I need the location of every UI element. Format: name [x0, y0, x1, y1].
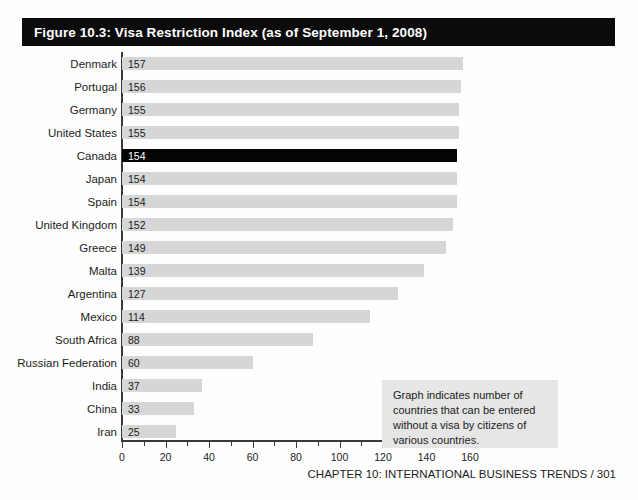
- bar-category-label: Mexico: [0, 311, 117, 323]
- bar-category-label: Russian Federation: [0, 357, 117, 369]
- bar: 25: [122, 425, 176, 438]
- x-axis-minor-tick: [361, 441, 362, 446]
- x-axis-minor-tick: [187, 441, 188, 446]
- bar-category-label: Germany: [0, 104, 117, 116]
- x-axis-major-tick: [296, 441, 297, 448]
- bar-row: United States155: [0, 121, 638, 144]
- x-axis-major-tick: [122, 441, 123, 448]
- bar-chart-plot-area: Denmark157Portugal156Germany155United St…: [0, 52, 638, 444]
- bar-value-label: 60: [128, 357, 140, 369]
- x-axis-minor-tick: [318, 441, 319, 446]
- bar: 155: [122, 126, 459, 139]
- bar-value-label: 149: [128, 242, 146, 254]
- x-axis-major-tick: [209, 441, 210, 448]
- bar-category-label: United Kingdom: [0, 219, 117, 231]
- bar-value-label: 88: [128, 334, 140, 346]
- bar: 156: [122, 80, 461, 93]
- bar-category-label: Japan: [0, 173, 117, 185]
- bar-category-label: Malta: [0, 265, 117, 277]
- bar-value-label: 154: [128, 196, 146, 208]
- bar-value-label: 155: [128, 104, 146, 116]
- page-footer: CHAPTER 10: INTERNATIONAL BUSINESS TREND…: [308, 468, 616, 480]
- bar-row: Spain154: [0, 190, 638, 213]
- bar-category-label: United States: [0, 127, 117, 139]
- bar-row: United Kingdom152: [0, 213, 638, 236]
- bar-row: Malta139: [0, 259, 638, 282]
- bar: 157: [122, 57, 463, 70]
- bar: 154: [122, 149, 457, 162]
- bar-row: Argentina127: [0, 282, 638, 305]
- bar-row: Germany155: [0, 98, 638, 121]
- figure-page: Figure 10.3: Visa Restriction Index (as …: [0, 0, 638, 500]
- x-axis-minor-tick: [274, 441, 275, 446]
- bar: 155: [122, 103, 459, 116]
- bar-category-label: China: [0, 403, 117, 415]
- bar: 154: [122, 195, 457, 208]
- bar-value-label: 33: [128, 403, 140, 415]
- bar: 149: [122, 241, 446, 254]
- bar: 33: [122, 402, 194, 415]
- bar: 139: [122, 264, 424, 277]
- bar-category-label: Denmark: [0, 58, 117, 70]
- x-axis-tick-label: 60: [247, 451, 259, 463]
- figure-title: Figure 10.3: Visa Restriction Index (as …: [34, 25, 427, 40]
- bar-row: Japan154: [0, 167, 638, 190]
- bar-category-label: South Africa: [0, 334, 117, 346]
- bar-category-label: Spain: [0, 196, 117, 208]
- bar-value-label: 127: [128, 288, 146, 300]
- bar-row: Mexico114: [0, 305, 638, 328]
- bar: 60: [122, 356, 253, 369]
- chart-annotation-text: Graph indicates number of countries that…: [393, 388, 548, 447]
- bar-value-label: 156: [128, 81, 146, 93]
- x-axis-tick-label: 0: [119, 451, 125, 463]
- chart-annotation-box: Graph indicates number of countries that…: [382, 380, 558, 448]
- bar-row: Canada154: [0, 144, 638, 167]
- x-axis-tick-label: 160: [461, 451, 479, 463]
- x-axis-major-tick: [166, 441, 167, 448]
- bar-value-label: 155: [128, 127, 146, 139]
- bar-category-label: India: [0, 380, 117, 392]
- bar-row: Russian Federation60: [0, 351, 638, 374]
- bar-row: Denmark157: [0, 52, 638, 75]
- bar-value-label: 157: [128, 58, 146, 70]
- x-axis-major-tick: [253, 441, 254, 448]
- bar-row: Portugal156: [0, 75, 638, 98]
- bar-category-label: Portugal: [0, 81, 117, 93]
- bar-value-label: 25: [128, 426, 140, 438]
- bar-value-label: 114: [128, 311, 145, 323]
- bar-value-label: 139: [128, 265, 146, 277]
- bar: 127: [122, 287, 398, 300]
- bar: 154: [122, 172, 457, 185]
- x-axis-tick-label: 140: [418, 451, 436, 463]
- bar-value-label: 152: [128, 219, 146, 231]
- bar: 152: [122, 218, 453, 231]
- bar-category-label: Greece: [0, 242, 117, 254]
- x-axis-major-tick: [340, 441, 341, 448]
- bar-row: South Africa88: [0, 328, 638, 351]
- x-axis-tick-label: 20: [160, 451, 172, 463]
- bar-value-label: 154: [128, 150, 146, 162]
- figure-title-bar: Figure 10.3: Visa Restriction Index (as …: [22, 18, 615, 46]
- bar-category-label: Canada: [0, 150, 117, 162]
- bar-value-label: 37: [128, 380, 140, 392]
- x-axis-minor-tick: [231, 441, 232, 446]
- x-axis-tick-label: 120: [374, 451, 392, 463]
- x-axis-tick-label: 40: [203, 451, 215, 463]
- bar-row: Greece149: [0, 236, 638, 259]
- x-axis-minor-tick: [144, 441, 145, 446]
- bar: 88: [122, 333, 313, 346]
- bar-category-label: Argentina: [0, 288, 117, 300]
- x-axis-tick-label: 80: [290, 451, 302, 463]
- bar: 37: [122, 379, 202, 392]
- x-axis-tick-label: 100: [331, 451, 349, 463]
- bar-value-label: 154: [128, 173, 146, 185]
- bar-category-label: Iran: [0, 426, 117, 438]
- bar: 114: [122, 310, 370, 323]
